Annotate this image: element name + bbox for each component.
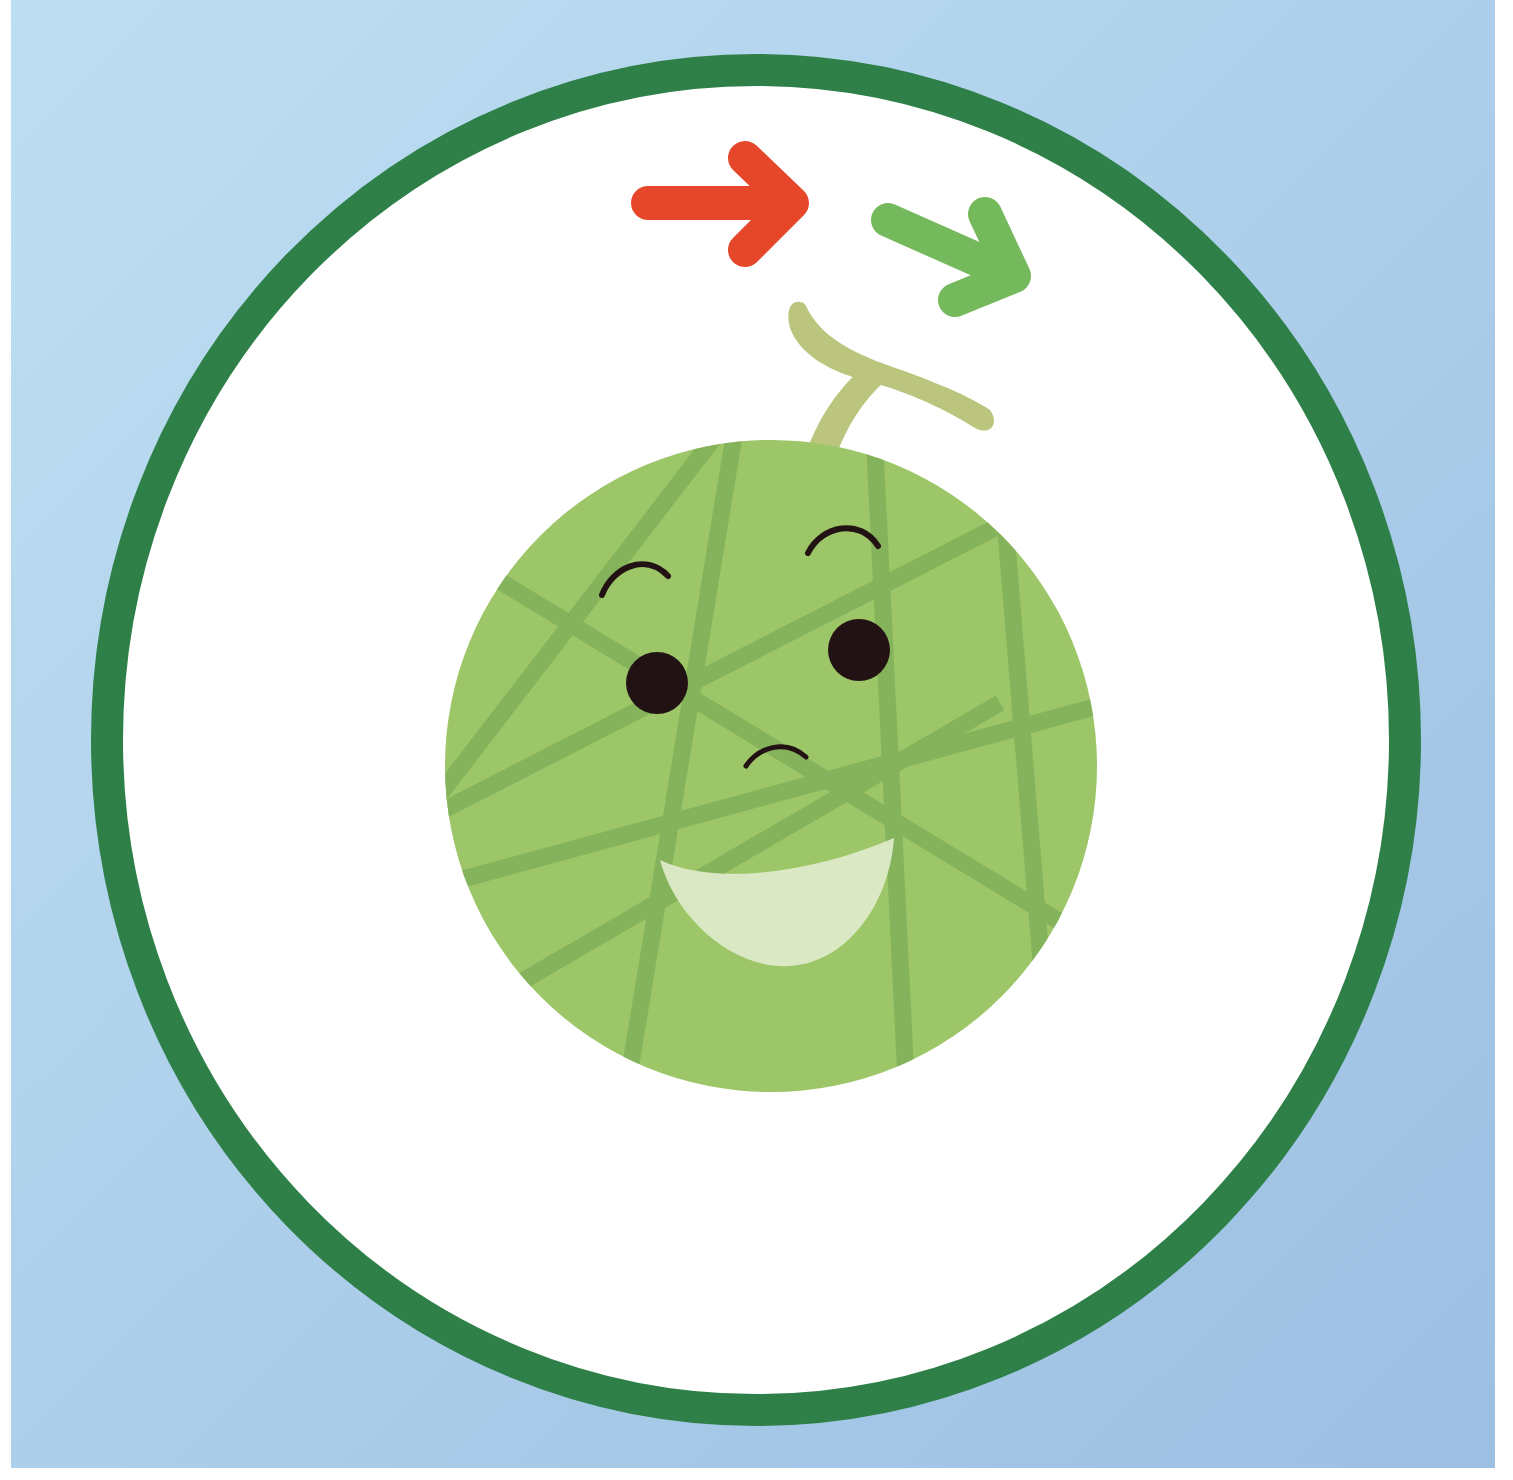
- right-eye: [828, 619, 890, 681]
- melon-illustration: [0, 0, 1513, 1480]
- left-eye: [626, 652, 688, 714]
